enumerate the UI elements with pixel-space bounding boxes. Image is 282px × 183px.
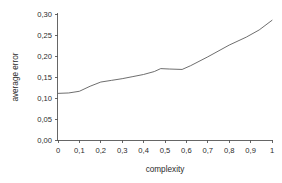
x-tick-label: 0,5 [160,146,171,155]
y-tick-label: 0,30 [37,10,52,19]
y-tick-label: 0,00 [37,136,52,145]
x-tick-label: 0,2 [96,146,107,155]
x-tick-label: 0,9 [245,146,256,155]
y-tick-label: 0,05 [37,115,52,124]
data-line-average-error [58,20,272,93]
line-chart: 0,000,050,100,150,200,250,30 average err… [0,0,282,183]
y-tick-label: 0,10 [37,94,52,103]
y-axis-title: average error [11,52,20,101]
x-tick-label: 0,1 [74,146,85,155]
x-axis-title: complexity [146,165,186,174]
x-axis-group: 00,10,20,30,40,50,60,70,80,91 complexity [56,140,274,174]
x-tick-label: 0,8 [224,146,235,155]
y-tick-label: 0,20 [37,52,52,61]
x-tick-label: 0,7 [203,146,214,155]
x-tick-label: 0,4 [138,146,149,155]
y-axis-group: 0,000,050,100,150,200,250,30 average err… [11,10,58,145]
y-tick-label: 0,25 [37,31,52,40]
y-tick-label: 0,15 [37,73,52,82]
x-tick-label: 0,6 [181,146,192,155]
x-tick-label: 0 [56,146,60,155]
x-tick-label: 1 [270,146,274,155]
data-series-group [58,20,272,93]
x-tick-labels: 00,10,20,30,40,50,60,70,80,91 [56,146,274,155]
chart-container: 0,000,050,100,150,200,250,30 average err… [0,0,282,183]
y-tick-labels: 0,000,050,100,150,200,250,30 [37,10,52,145]
x-tick-label: 0,3 [117,146,128,155]
